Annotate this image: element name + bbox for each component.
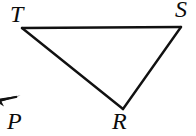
point-label-p: P: [7, 109, 22, 133]
vertex-label-t: T: [10, 2, 23, 26]
diagram-background: [0, 0, 196, 136]
geometry-diagram: [0, 0, 196, 136]
vertex-label-s: S: [175, 0, 187, 21]
edge-ts: [22, 27, 181, 28]
vertex-label-r: R: [112, 109, 127, 133]
